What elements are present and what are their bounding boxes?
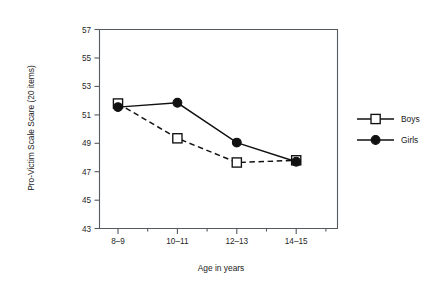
pro-victim-line-chart: 57 55 53 51 49 47 45 43 8–9 10–11 12–13 … [0, 0, 446, 291]
y-tick-label: 55 [82, 54, 92, 63]
y-tick-label: 51 [82, 111, 92, 120]
y-axis-title: Pro-Victim Scale Scare (20 items) [26, 65, 36, 191]
x-axis-ticks [118, 229, 326, 235]
x-tick-label: 10–11 [166, 237, 189, 246]
plot-frame [100, 30, 338, 229]
legend-label-boys: Boys [401, 114, 420, 124]
y-tick-label: 45 [82, 196, 92, 205]
x-tick-label: 8–9 [111, 237, 125, 246]
x-axis-tick-labels: 8–9 10–11 12–13 14–15 [111, 237, 308, 246]
y-tick-label: 57 [82, 26, 92, 35]
data-point-girls [114, 103, 123, 112]
data-point-boys [173, 134, 182, 143]
y-tick-label: 53 [82, 82, 92, 91]
series-girls [114, 98, 301, 166]
x-axis-title: Age in years [198, 263, 245, 273]
data-point-girls [232, 138, 241, 147]
legend-marker-filled-circle-icon [371, 136, 380, 145]
data-point-girls [173, 98, 182, 107]
x-tick-label: 14–15 [285, 237, 308, 246]
x-tick-label: 12–13 [225, 237, 248, 246]
data-point-girls [292, 157, 301, 166]
series-boys [113, 99, 300, 167]
legend-marker-open-square-icon [371, 114, 380, 123]
chart-legend: Boys Girls [357, 114, 420, 145]
y-tick-label: 49 [82, 139, 92, 148]
legend-label-girls: Girls [401, 135, 418, 145]
legend-item-girls[interactable]: Girls [357, 135, 418, 145]
y-tick-label: 47 [82, 168, 92, 177]
y-tick-label: 43 [82, 225, 92, 234]
y-axis-tick-labels: 57 55 53 51 49 47 45 43 [82, 26, 92, 234]
legend-item-boys[interactable]: Boys [357, 114, 420, 124]
series-girls-line [118, 103, 296, 162]
chart-figure: 57 55 53 51 49 47 45 43 8–9 10–11 12–13 … [0, 0, 446, 291]
data-point-boys [232, 158, 241, 167]
y-axis-ticks [95, 30, 100, 229]
